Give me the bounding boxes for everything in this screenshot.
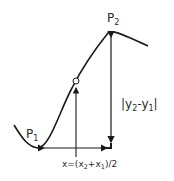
curve xyxy=(14,32,148,148)
vertical-distance-label: |y2-y1| xyxy=(121,97,158,113)
midpoint-diagram: P2 P1 |y2-y1| x=(x2+x1)/2 xyxy=(0,0,174,181)
p2-label: P2 xyxy=(107,11,119,27)
p1-label: P1 xyxy=(26,127,38,143)
midpoint-formula-label: x=(x2+x1)/2 xyxy=(62,159,117,171)
corner-mark xyxy=(106,143,111,148)
midpoint-marker xyxy=(73,78,79,84)
